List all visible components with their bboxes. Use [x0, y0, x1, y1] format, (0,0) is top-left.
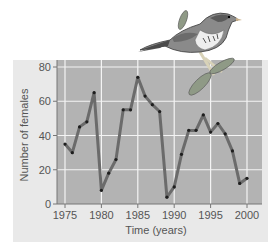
data-point — [187, 129, 190, 132]
data-point — [165, 196, 168, 199]
y-tick-label: 80 — [39, 61, 51, 73]
data-point — [245, 177, 248, 180]
x-tick-label: 2000 — [235, 209, 259, 221]
data-point — [122, 108, 125, 111]
plot-area — [57, 60, 262, 204]
data-point — [78, 125, 81, 128]
data-point — [93, 91, 96, 94]
x-axis-title: Time (years) — [125, 224, 186, 236]
data-point — [85, 120, 88, 123]
x-tick-label: 1985 — [126, 209, 150, 221]
data-point — [100, 189, 103, 192]
data-point — [151, 103, 154, 106]
x-tick-label: 1990 — [162, 209, 186, 221]
data-point — [129, 108, 132, 111]
bird-icon — [138, 13, 242, 52]
data-point — [202, 113, 205, 116]
data-point — [158, 110, 161, 113]
data-point — [209, 130, 212, 133]
data-point — [63, 142, 66, 145]
data-point — [114, 158, 117, 161]
x-tick-label: 1995 — [198, 209, 222, 221]
data-point — [136, 76, 139, 79]
y-axis-title: Number of females — [18, 88, 30, 181]
data-point — [194, 129, 197, 132]
line-chart: 020406080 197519801985199019952000 Numbe… — [0, 0, 268, 250]
data-point — [143, 95, 146, 98]
data-point — [231, 149, 234, 152]
data-point — [216, 122, 219, 125]
data-point — [107, 172, 110, 175]
x-axis-ticks: 197519801985199019952000 — [53, 204, 259, 221]
y-axis-ticks: 020406080 — [39, 61, 57, 210]
data-point — [71, 151, 74, 154]
y-tick-label: 0 — [45, 198, 51, 210]
data-point — [173, 185, 176, 188]
data-point — [224, 132, 227, 135]
data-point — [180, 153, 183, 156]
x-tick-label: 1980 — [89, 209, 113, 221]
data-point — [238, 182, 241, 185]
x-tick-label: 1975 — [53, 209, 77, 221]
y-tick-label: 20 — [39, 164, 51, 176]
y-tick-label: 60 — [39, 95, 51, 107]
y-tick-label: 40 — [39, 130, 51, 142]
